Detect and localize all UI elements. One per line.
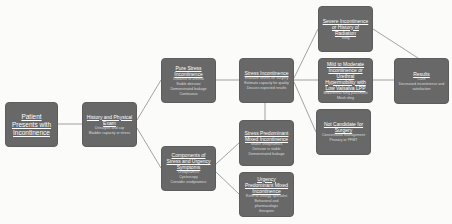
node-title[interactable]: Stress Predominant Mixed Incontinence bbox=[243, 130, 290, 142]
node-detail: Mesh sling bbox=[337, 96, 354, 101]
node-detail: Demonstrated leakage bbox=[248, 152, 284, 157]
node-stress-incontinence[interactable]: Stress Incontinence Evaluate fitness for… bbox=[239, 58, 294, 103]
edge-history-pure-stress bbox=[137, 80, 161, 120]
node-title[interactable]: History and Physical Exam bbox=[86, 114, 133, 126]
edge-severe-results bbox=[373, 29, 418, 58]
node-mild-moderate[interactable]: Mild to Moderate Incontinence or Urethra… bbox=[318, 58, 373, 103]
node-detail: Discuss expected results bbox=[247, 86, 287, 91]
edge-stress-inc-not-candidate bbox=[294, 82, 316, 132]
node-results[interactable]: Results Cure Decreased incontinence and … bbox=[394, 58, 449, 104]
node-detail: Bladder capacity or stress bbox=[89, 131, 130, 136]
node-title[interactable]: Pure Stress Incontinence bbox=[165, 65, 212, 77]
node-detail: therapies bbox=[259, 209, 274, 214]
node-title[interactable]: Severe Incontinence or History of Radiat… bbox=[322, 18, 369, 36]
edge-components-stress-mixed bbox=[216, 143, 239, 164]
node-severe-radiation[interactable]: Severe Incontinence or History of Radiat… bbox=[318, 6, 373, 52]
node-stress-predominant-mixed[interactable]: Stress Predominant Mixed Incontinence St… bbox=[239, 120, 294, 166]
edge-stress-inc-severe bbox=[294, 29, 318, 78]
edge-components-urgency-mixed bbox=[216, 172, 239, 194]
node-title[interactable]: Not Candidate for Surgery bbox=[320, 121, 367, 133]
connector-lines bbox=[0, 0, 452, 224]
node-title[interactable]: Patient Presents with Incontinence bbox=[9, 113, 54, 137]
node-detail: Decreased incontinence and satisfaction bbox=[398, 82, 445, 92]
node-components[interactable]: Components of Stress and Urgency Symptom… bbox=[161, 146, 216, 191]
node-detail: Continuous bbox=[179, 92, 197, 97]
node-history-physical[interactable]: History and Physical Exam Urinalysis and… bbox=[82, 102, 137, 147]
node-pure-stress[interactable]: Pure Stress Incontinence Distance to ure… bbox=[161, 58, 216, 103]
node-not-candidate[interactable]: Not Candidate for Surgery Conservative m… bbox=[316, 109, 371, 155]
node-detail: Behavioral and pharmacologic bbox=[243, 199, 290, 209]
node-patient-presents[interactable]: Patient Presents with Incontinence bbox=[5, 102, 58, 147]
node-urgency-predominant-mixed[interactable]: Urgency Predominant Mixed Incontinence R… bbox=[239, 172, 294, 217]
node-detail: Consider urodynamics bbox=[171, 180, 207, 185]
node-title[interactable]: Urgency Predominant Mixed Incontinence bbox=[243, 176, 290, 194]
edge-history-components bbox=[137, 128, 161, 168]
node-detail: Sling bbox=[342, 36, 350, 41]
node-title[interactable]: Components of Stress and Urgency Symptom… bbox=[165, 152, 212, 170]
node-detail: Pessary or PFMT bbox=[330, 138, 358, 143]
node-title[interactable]: Mild to Moderate Incontinence or Urethra… bbox=[322, 61, 369, 91]
